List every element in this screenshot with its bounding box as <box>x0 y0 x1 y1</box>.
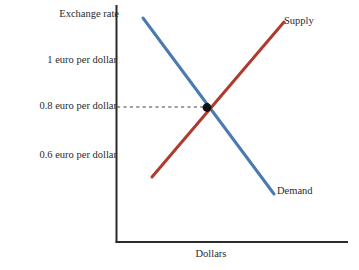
demand-curve-label: Demand <box>277 186 313 197</box>
y-tick-label-0-8-euro: 0.8 euro per dollar <box>39 101 117 112</box>
supply-demand-chart <box>0 0 359 270</box>
y-tick-label-0-6-euro: 0.6 euro per dollar <box>39 150 117 161</box>
supply-curve-label: Supply <box>284 16 314 27</box>
x-axis-title: Dollars <box>196 249 227 260</box>
plot-background <box>0 0 359 270</box>
y-tick-label-1-euro: 1 euro per dollar <box>47 55 117 66</box>
y-axis-title: Exchange rate <box>59 9 119 20</box>
equilibrium-point-marker <box>203 103 212 112</box>
chart-screenshot: Exchange rate 1 euro per dollar 0.8 euro… <box>0 0 359 270</box>
